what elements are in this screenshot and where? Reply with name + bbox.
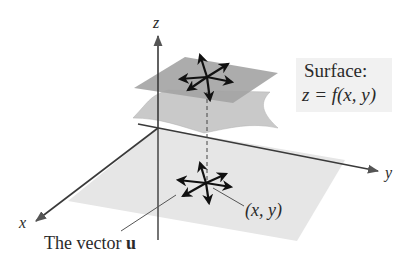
- vector-u-label: The vector u: [44, 233, 136, 254]
- y-axis-label: y: [385, 164, 392, 182]
- surface-callout-equation: z = f(x, y): [302, 84, 376, 106]
- surface-callout-title: Surface:: [304, 60, 367, 82]
- vector-u-symbol: u: [126, 233, 136, 253]
- x-axis-label: x: [19, 214, 26, 232]
- z-axis-label: z: [153, 14, 159, 32]
- vector-u-label-text: The vector: [44, 233, 126, 253]
- point-label: (x, y): [245, 200, 282, 221]
